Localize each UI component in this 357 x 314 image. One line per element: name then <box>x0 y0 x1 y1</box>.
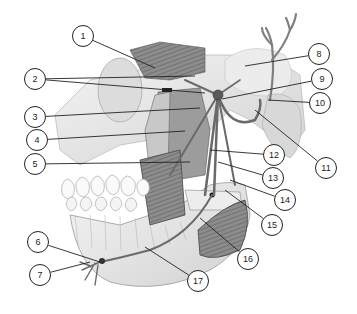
leader-line-12 <box>210 150 263 154</box>
callout-17: 17 <box>187 270 209 292</box>
callout-9: 9 <box>311 68 333 90</box>
jaw-nerve-illustration <box>0 0 357 314</box>
callout-10: 10 <box>309 92 331 114</box>
callout-4: 4 <box>26 129 48 151</box>
upper-teeth <box>62 175 150 199</box>
leader-line-7 <box>51 262 90 272</box>
callout-3: 3 <box>24 106 46 128</box>
callout-6: 6 <box>27 231 49 253</box>
leader-line-13 <box>218 162 262 175</box>
mental-foramen <box>99 258 105 264</box>
callout-14: 14 <box>274 189 296 211</box>
callout-16: 16 <box>237 248 259 270</box>
callout-13: 13 <box>262 167 284 189</box>
callout-1: 1 <box>72 25 94 47</box>
callout-2: 2 <box>24 68 46 90</box>
callout-7: 7 <box>29 264 51 286</box>
trigeminal-ganglion <box>213 90 223 100</box>
callout-5: 5 <box>24 153 46 175</box>
callout-11: 11 <box>315 157 337 179</box>
anatomy-figure: 1234567891011121314151617 <box>0 0 357 314</box>
lower-teeth <box>66 197 137 212</box>
callout-12: 12 <box>263 144 285 166</box>
callout-8: 8 <box>308 43 330 65</box>
callout-15: 15 <box>261 214 283 236</box>
